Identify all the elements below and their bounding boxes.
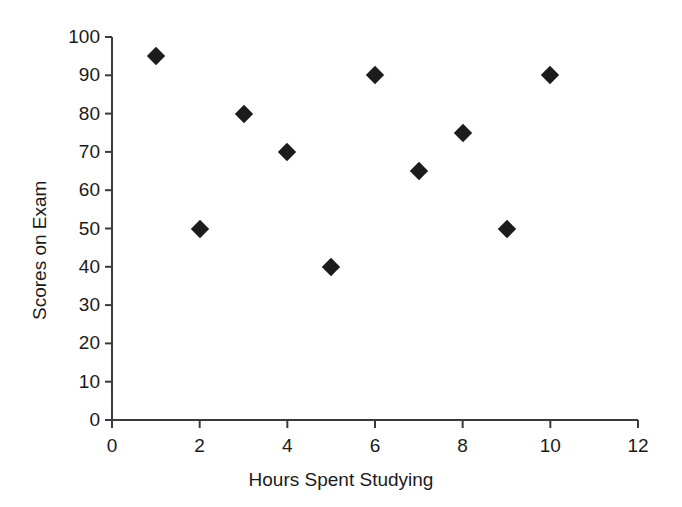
x-tick-label-12: 12 xyxy=(608,436,668,455)
y-tick-label-10: 10 xyxy=(50,372,100,391)
x-tick-label-6: 6 xyxy=(345,436,405,455)
scatter-chart: 0102030405060708090100 024681012 Hours S… xyxy=(0,0,682,507)
y-tick-label-100: 100 xyxy=(50,27,100,46)
y-axis-title: Scores on Exam xyxy=(30,181,49,320)
y-tick-label-70: 70 xyxy=(50,142,100,161)
x-tick-label-2: 2 xyxy=(170,436,230,455)
y-tick-label-0: 0 xyxy=(50,410,100,429)
x-tick-label-10: 10 xyxy=(520,436,580,455)
y-tick-label-60: 60 xyxy=(50,180,100,199)
x-axis-ticks xyxy=(112,420,638,428)
y-tick-label-80: 80 xyxy=(50,104,100,123)
chart-axes-svg xyxy=(0,0,682,507)
y-tick-label-40: 40 xyxy=(50,257,100,276)
y-tick-label-50: 50 xyxy=(50,219,100,238)
x-tick-label-0: 0 xyxy=(82,436,142,455)
x-axis-title: Hours Spent Studying xyxy=(0,470,682,489)
y-tick-label-20: 20 xyxy=(50,333,100,352)
y-tick-label-30: 30 xyxy=(50,295,100,314)
x-tick-label-8: 8 xyxy=(433,436,493,455)
y-axis-ticks xyxy=(105,37,112,420)
x-tick-label-4: 4 xyxy=(257,436,317,455)
y-tick-label-90: 90 xyxy=(50,65,100,84)
